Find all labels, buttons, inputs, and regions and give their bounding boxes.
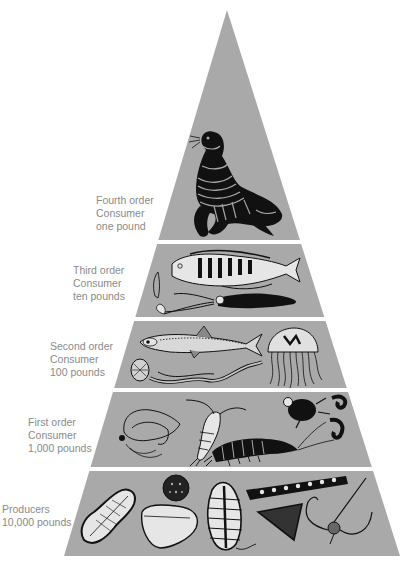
tier-level: Fourth order bbox=[96, 194, 154, 207]
tier-level: Second order bbox=[50, 340, 113, 353]
tier-label-fourth-order: Fourth order Consumer one pound bbox=[96, 194, 154, 233]
tier-label-first-order: First order Consumer 1,000 pounds bbox=[28, 416, 92, 455]
tier-mass: 1,000 pounds bbox=[28, 442, 92, 455]
tier-level: Producers bbox=[2, 503, 71, 516]
comb-jelly-illustration bbox=[131, 359, 149, 381]
tier-label-producers: Producers 10,000 pounds bbox=[2, 503, 71, 529]
tier-label-third-order: Third order Consumer ten pounds bbox=[73, 264, 125, 303]
tier-role: Consumer bbox=[96, 207, 154, 220]
pyramid-graphic bbox=[0, 0, 401, 561]
tier-level: First order bbox=[28, 416, 92, 429]
tier-role: Consumer bbox=[28, 429, 92, 442]
tier-level: Third order bbox=[73, 264, 125, 277]
tier-mass: 10,000 pounds bbox=[2, 516, 71, 529]
tier-divider-3 bbox=[90, 388, 380, 392]
tier-role: Consumer bbox=[73, 277, 125, 290]
tier-role: Consumer bbox=[50, 353, 113, 366]
tier-mass: one pound bbox=[96, 220, 154, 233]
tier-mass: ten pounds bbox=[73, 290, 125, 303]
tier-divider-4 bbox=[60, 467, 401, 471]
radiolarian-illustration bbox=[163, 475, 189, 501]
tier-label-second-order: Second order Consumer 100 pounds bbox=[50, 340, 113, 379]
tier-divider-1 bbox=[140, 240, 320, 244]
tier-mass: 100 pounds bbox=[50, 366, 113, 379]
tier-divider-2 bbox=[110, 317, 350, 321]
food-pyramid-diagram: Fourth order Consumer one pound Third or… bbox=[0, 0, 401, 561]
